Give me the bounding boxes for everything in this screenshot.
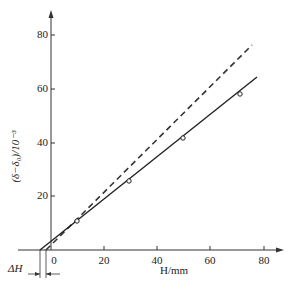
data-point	[75, 219, 79, 223]
y-tick-label: 40	[24, 136, 48, 148]
delta-h-annotation: ΔH	[8, 262, 22, 274]
data-point	[181, 136, 185, 140]
data-point	[238, 92, 242, 96]
x-tick-label: 60	[198, 254, 222, 266]
x-axis-label: H/mm	[160, 264, 188, 276]
x-tick-label: 0	[42, 254, 66, 266]
solid-line	[40, 77, 257, 250]
x-tick-label: 20	[92, 254, 116, 266]
y-tick-label: 20	[24, 189, 48, 201]
data-point	[127, 179, 131, 183]
x-tick-label: 80	[252, 254, 276, 266]
x-axis-arrow-icon	[276, 248, 284, 253]
y-axis-label: (δ−δ₀)/10⁻³	[9, 102, 22, 212]
y-axis-arrow-icon	[49, 10, 54, 18]
chart: 80 60 40 20 0 20 40 60 80 (δ−δ₀)/10⁻³ H/…	[0, 0, 299, 293]
y-tick-label: 60	[24, 82, 48, 94]
y-tick-label: 80	[24, 28, 48, 40]
